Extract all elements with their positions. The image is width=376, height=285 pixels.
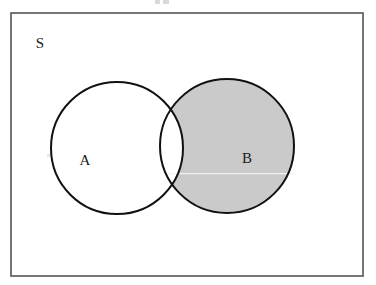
set-b-label: B [242, 150, 252, 166]
shaded-region-b-minus-a [0, 0, 376, 285]
set-a-label: A [80, 152, 91, 168]
universal-set-label: S [36, 35, 44, 51]
scan-line-artifact [168, 173, 294, 174]
venn-diagram-figure: S A B [0, 0, 376, 285]
venn-diagram-canvas: S A B [0, 0, 376, 285]
